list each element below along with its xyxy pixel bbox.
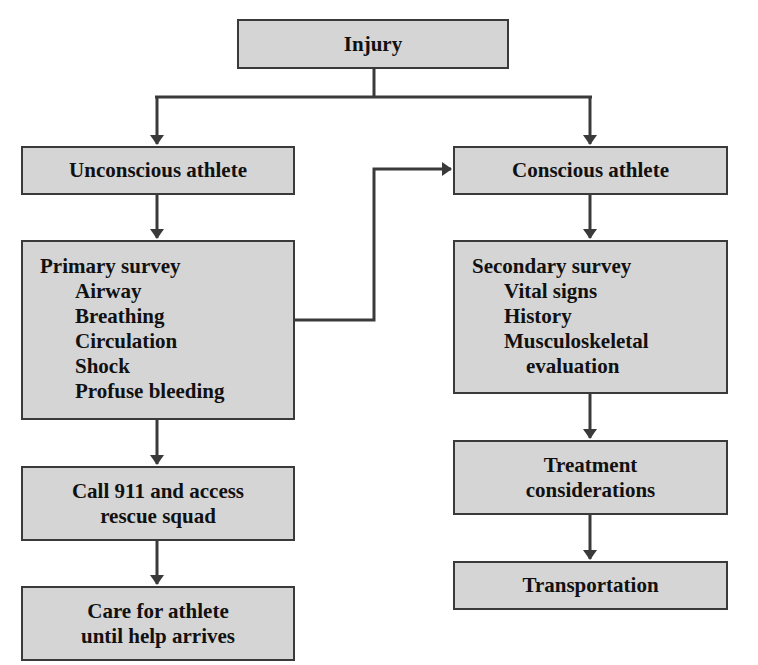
primary-item-breathing: Breathing <box>40 304 293 329</box>
care-line2: until help arrives <box>81 624 235 649</box>
primary-item-airway: Airway <box>40 279 293 304</box>
node-call-911: Call 911 and access rescue squad <box>21 466 295 541</box>
node-conscious-athlete: Conscious athlete <box>453 146 728 195</box>
node-primary-survey: Primary survey Airway Breathing Circulat… <box>21 240 295 420</box>
node-conscious-label: Conscious athlete <box>512 158 669 183</box>
secondary-item-history: History <box>472 304 726 329</box>
call-911-line2: rescue squad <box>100 504 216 529</box>
node-secondary-survey: Secondary survey Vital signs History Mus… <box>453 240 728 394</box>
care-line1: Care for athlete <box>87 599 229 624</box>
node-transportation: Transportation <box>453 561 728 610</box>
node-unconscious-athlete: Unconscious athlete <box>21 146 295 195</box>
node-injury: Injury <box>237 19 509 69</box>
primary-item-shock: Shock <box>40 354 293 379</box>
primary-survey-title: Primary survey <box>40 254 293 279</box>
node-treatment-considerations: Treatment considerations <box>453 440 728 515</box>
treatment-line2: considerations <box>526 478 656 503</box>
secondary-item-evaluation: evaluation <box>472 354 726 379</box>
primary-item-circulation: Circulation <box>40 329 293 354</box>
secondary-survey-title: Secondary survey <box>472 254 726 279</box>
secondary-item-musculoskeletal: Musculoskeletal <box>472 329 726 354</box>
node-care-for-athlete: Care for athlete until help arrives <box>21 586 295 661</box>
node-injury-label: Injury <box>344 32 402 57</box>
node-transportation-label: Transportation <box>522 573 658 598</box>
node-unconscious-label: Unconscious athlete <box>69 158 247 183</box>
treatment-line1: Treatment <box>544 453 638 478</box>
call-911-line1: Call 911 and access <box>72 479 244 504</box>
secondary-item-vital-signs: Vital signs <box>472 279 726 304</box>
primary-item-profuse-bleeding: Profuse bleeding <box>40 379 293 404</box>
